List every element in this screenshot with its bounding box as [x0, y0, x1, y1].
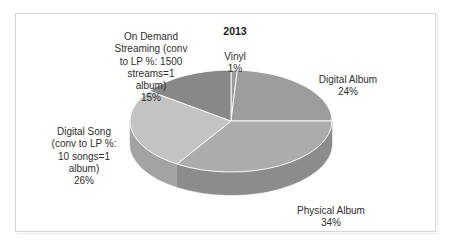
- slice-label-digital-album-text: Digital Album: [319, 74, 377, 85]
- slice-label-digital-song: Digital Song (conv to LP %: 10 songs=1 a…: [26, 114, 142, 199]
- slice-label-on-demand-streaming-text: On Demand Streaming (conv to LP %: 1500 …: [115, 31, 188, 91]
- slice-label-physical-album: Physical Album 34%: [276, 193, 386, 242]
- slice-label-digital-song-pct: 26%: [26, 175, 142, 187]
- slice-label-vinyl: Vinyl 1%: [196, 39, 274, 88]
- slice-label-vinyl-text: Vinyl: [224, 51, 246, 62]
- slice-label-physical-album-text: Physical Album: [297, 205, 365, 216]
- slice-label-on-demand-streaming: On Demand Streaming (conv to LP %: 1500 …: [92, 19, 210, 117]
- pie-chart-figure: 2013 On Demand Streaming (conv to LP %: …: [0, 0, 455, 248]
- slice-label-on-demand-streaming-pct: 15%: [92, 92, 210, 104]
- slice-label-vinyl-pct: 1%: [196, 63, 274, 75]
- slice-label-digital-song-text: Digital Song (conv to LP %: 10 songs=1 a…: [52, 126, 117, 174]
- slice-label-physical-album-pct: 34%: [276, 217, 386, 229]
- slice-label-digital-album: Digital Album 24%: [294, 62, 402, 111]
- slice-label-digital-album-pct: 24%: [294, 86, 402, 98]
